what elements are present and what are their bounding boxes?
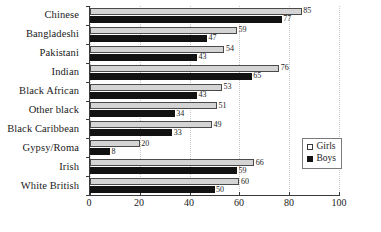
bar-group: 5947 — [90, 25, 339, 44]
bar-group: 5343 — [90, 82, 339, 101]
category-label: Irish — [0, 158, 84, 177]
bar-value-label: 49 — [212, 121, 222, 129]
category-label: Bangladeshi — [0, 25, 84, 44]
category-label: Other black — [0, 101, 84, 120]
bar-boys — [90, 129, 172, 136]
bar-value-label: 53 — [222, 83, 232, 91]
bar-girls — [90, 159, 254, 166]
chart-legend: GirlsBoys — [302, 138, 342, 169]
bar-boys — [90, 110, 175, 117]
bar-row: 53 — [90, 84, 339, 91]
bar-value-label: 54 — [224, 45, 234, 53]
category-label: White British — [0, 177, 84, 196]
bar-value-label: 66 — [254, 159, 264, 167]
x-tick-label: 60 — [234, 198, 244, 208]
legend-entry: Girls — [307, 141, 336, 153]
legend-entry: Boys — [307, 153, 336, 165]
x-tick-label: 0 — [87, 198, 92, 208]
bar-row: 33 — [90, 129, 339, 136]
bar-girls — [90, 8, 302, 15]
bar-value-label: 47 — [207, 34, 217, 42]
bar-row: 50 — [90, 186, 339, 193]
y-tick-mark — [86, 195, 90, 196]
bar-boys — [90, 54, 197, 61]
x-tick-label: 20 — [134, 198, 144, 208]
x-tick-label: 80 — [284, 198, 294, 208]
bar-value-label: 43 — [197, 91, 207, 99]
bar-value-label: 8 — [110, 148, 116, 156]
category-label: Gypsy/Roma — [0, 139, 84, 158]
bar-row: 49 — [90, 121, 339, 128]
legend-label: Girls — [317, 141, 336, 153]
bar-row: 77 — [90, 16, 339, 23]
category-label: Indian — [0, 63, 84, 82]
bar-value-label: 20 — [140, 140, 150, 148]
bar-value-label: 50 — [215, 186, 225, 194]
bar-girls — [90, 65, 279, 72]
category-label: Chinese — [0, 6, 84, 25]
bar-value-label: 59 — [237, 167, 247, 175]
legend-swatch-girls — [307, 144, 313, 150]
bar-row: 43 — [90, 54, 339, 61]
bar-value-label: 51 — [217, 102, 227, 110]
bar-group: 8577 — [90, 6, 339, 25]
bar-boys — [90, 148, 110, 155]
legend-swatch-boys — [307, 156, 313, 162]
bar-value-label: 76 — [279, 64, 289, 72]
bar-value-label: 34 — [175, 110, 185, 118]
category-label: Black African — [0, 82, 84, 101]
bar-value-label: 33 — [172, 129, 182, 137]
bar-row: 60 — [90, 178, 339, 185]
legend-label: Boys — [317, 153, 337, 165]
bar-group: 5443 — [90, 44, 339, 63]
bar-value-label: 43 — [197, 53, 207, 61]
bar-row: 34 — [90, 110, 339, 117]
bar-boys — [90, 35, 207, 42]
bar-value-label: 60 — [239, 178, 249, 186]
x-tick-label: 100 — [332, 198, 347, 208]
bar-boys — [90, 92, 197, 99]
bar-group: 5134 — [90, 101, 339, 120]
bar-row: 51 — [90, 102, 339, 109]
bar-value-label: 59 — [237, 26, 247, 34]
value-axis: 020406080100 — [89, 198, 339, 214]
bar-value-label: 85 — [302, 7, 312, 15]
bar-boys — [90, 186, 215, 193]
x-tick-mark — [339, 192, 340, 196]
grouped-bar-chart: ChineseBangladeshiPakistaniIndianBlack A… — [0, 0, 381, 232]
bar-value-label: 65 — [252, 72, 262, 80]
bar-group: 7665 — [90, 63, 339, 82]
bar-row: 47 — [90, 35, 339, 42]
bar-group: 4933 — [90, 119, 339, 138]
bar-girls — [90, 121, 212, 128]
bar-row: 65 — [90, 73, 339, 80]
bar-value-label: 77 — [282, 15, 292, 23]
bar-row: 43 — [90, 92, 339, 99]
bar-boys — [90, 16, 282, 23]
bar-group: 6050 — [90, 176, 339, 195]
category-label: Black Caribbean — [0, 120, 84, 139]
bar-girls — [90, 102, 217, 109]
x-tick-label: 40 — [184, 198, 194, 208]
bar-row: 54 — [90, 46, 339, 53]
category-axis: ChineseBangladeshiPakistaniIndianBlack A… — [0, 6, 84, 196]
bar-boys — [90, 73, 252, 80]
bar-row: 76 — [90, 65, 339, 72]
bar-boys — [90, 167, 237, 174]
category-label: Pakistani — [0, 44, 84, 63]
bar-row: 85 — [90, 8, 339, 15]
